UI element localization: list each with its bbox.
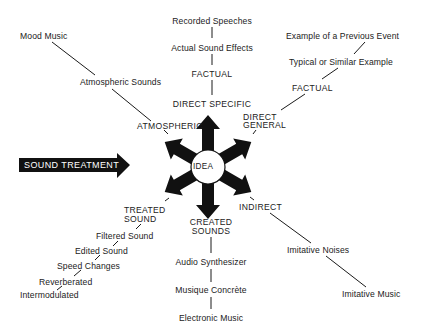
factual-general-label: FACTUAL	[292, 83, 333, 93]
edited-sound-label: Edited Sound	[75, 246, 128, 256]
recorded-speeches-label: Recorded Speeches	[172, 16, 252, 26]
audio-synthesizer-label: Audio Synthesizer	[176, 257, 247, 267]
musique-concrete-label: Musique Concrète	[175, 285, 246, 295]
created-sounds-label-line2: SOUNDS	[192, 226, 231, 236]
direct-general-label-line2: GENERAL	[243, 120, 286, 130]
indirect-label: INDIRECT	[239, 202, 282, 212]
factual-specific-label: FACTUAL	[192, 69, 233, 79]
treated-sound-label-line2: SOUND	[124, 214, 157, 224]
idea-label: IDEA	[193, 162, 213, 172]
sound-treatment-label: SOUND TREATMENT	[24, 160, 119, 170]
actual-sound-effects-label: Actual Sound Effects	[171, 43, 253, 53]
intermodulated-label: Intermodulated	[20, 290, 79, 300]
speed-changes-label: Speed Changes	[57, 261, 120, 271]
atmospheric-sounds-label: Atmospheric Sounds	[80, 77, 161, 87]
sound-treatment-diagram: SOUND TREATMENT IDEA Recorded Speeches A…	[0, 0, 424, 335]
filtered-sound-label: Filtered Sound	[96, 231, 153, 241]
typical-similar-example-label: Typical or Similar Example	[289, 57, 393, 67]
imitative-music-label: Imitative Music	[342, 289, 400, 299]
direct-specific-label: DIRECT SPECIFIC	[173, 99, 251, 109]
atmospheric-label: ATMOSPHERIC	[137, 121, 203, 131]
imitative-noises-label: Imitative Noises	[287, 245, 349, 255]
reverberated-label: Reverberated	[39, 277, 92, 287]
example-previous-event-label: Example of a Previous Event	[286, 31, 399, 41]
mood-music-label: Mood Music	[20, 31, 67, 41]
electronic-music-label: Electronic Music	[179, 313, 243, 323]
